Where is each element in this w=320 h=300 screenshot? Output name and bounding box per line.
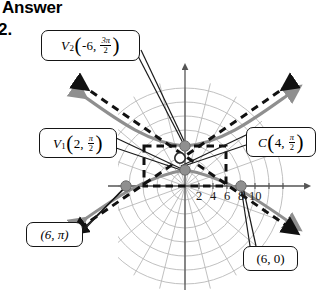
figure-page: Answer 2. <box>0 0 320 300</box>
callout-v2-subscript: 2 <box>70 44 75 53</box>
leader-v1-b <box>116 148 184 171</box>
callout-v2-r: -6 <box>82 39 93 52</box>
leader-v2-a <box>138 56 184 145</box>
callout-v1-theta-num: π <box>88 134 94 143</box>
paren-close-icon: ) <box>296 134 303 152</box>
callout-v1-theta-den: 2 <box>88 143 94 153</box>
paren-open-icon: ( <box>267 134 274 152</box>
point-vertex-2 <box>180 141 190 151</box>
point-vertex-1 <box>180 165 190 175</box>
paren-close-icon: ) <box>96 135 103 153</box>
callout-6pi-text: (6, π) <box>40 228 68 241</box>
callout-c-theta: π 2 <box>289 133 295 151</box>
callout-vertex-2: V2 ( -6 , 3π 2 ) <box>41 30 140 61</box>
x-tick-label-8: 8 <box>238 190 244 203</box>
callout-60-text: (6, 0) <box>256 252 284 265</box>
comma-separator: , <box>80 137 87 150</box>
callout-c-name: C <box>258 136 267 149</box>
point-center-c <box>175 153 185 163</box>
paren-close-icon: ) <box>112 37 119 55</box>
comma-separator: , <box>281 136 288 149</box>
x-tick-label-4: 4 <box>210 190 216 203</box>
paren-open-icon: ( <box>66 135 73 153</box>
callout-v2-theta: 3π 2 <box>100 36 111 54</box>
callout-point-6-pi: (6, π) <box>26 222 83 247</box>
point-6-pi <box>121 181 131 191</box>
callout-v1-subscript: 1 <box>61 142 66 151</box>
callout-v1-theta: π 2 <box>88 134 94 152</box>
callout-v2-theta-num: 3π <box>100 36 111 45</box>
callout-vertex-1: V1 ( 2 , π 2 ) <box>39 128 117 158</box>
callout-point-6-0: (6, 0) <box>243 246 298 271</box>
x-tick-label-6: 6 <box>224 190 230 203</box>
callout-v1-name: V <box>53 137 61 150</box>
callout-center: C ( 4 , π 2 ) <box>246 127 316 157</box>
callout-c-theta-den: 2 <box>289 142 295 152</box>
callout-c-theta-num: π <box>289 133 295 142</box>
x-tick-label-2: 2 <box>196 190 202 203</box>
comma-separator: , <box>93 39 100 52</box>
paren-open-icon: ( <box>75 37 82 55</box>
callout-v2-name: V <box>61 39 69 52</box>
callout-v2-theta-den: 2 <box>100 45 111 55</box>
x-tick-label-10: 10 <box>249 190 262 203</box>
